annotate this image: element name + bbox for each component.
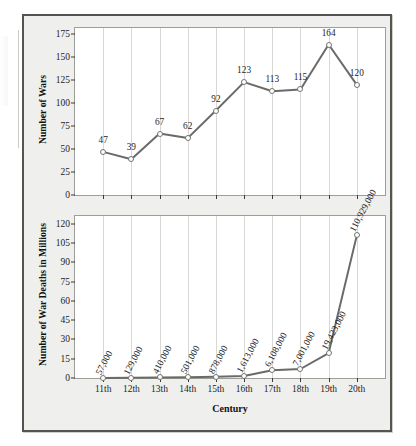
data-point-marker [326,42,332,48]
x-axis-tickmark [329,378,330,382]
x-axis-tickmark [131,195,132,199]
y-axis-tick-wars-100: 100 [56,98,75,108]
chart-panel-war-deaths: Number of War Deaths in Millions 57,0001… [24,211,390,431]
y-axis-tick-deaths-60: 60 [61,296,76,306]
x-axis-tickmark [329,195,330,199]
data-point-marker [157,131,163,137]
x-axis-tickmark [244,195,245,199]
x-axis-tick-20th: 20th [348,384,365,394]
y-axis-tick-deaths-45: 45 [61,315,76,325]
y-axis-tick-deaths-15: 15 [61,354,76,364]
figure-frame: Number of Wars 4739676292123113115164120… [22,14,392,432]
data-point-marker [241,79,247,85]
data-point-label: 113 [265,74,279,84]
x-axis-tick-18th: 18th [292,384,309,394]
data-point-marker [269,88,275,94]
x-axis-tick-14th: 14th [179,384,196,394]
data-point-label: 123 [237,65,251,75]
data-point-marker [213,108,219,114]
x-axis-tickmark [216,195,217,199]
scan-artifact-left-line [18,30,19,148]
x-axis-tick-11th: 11th [95,384,112,394]
data-point-marker [185,135,191,141]
x-axis-tick-16th: 16th [236,384,253,394]
y-axis-tick-wars-0: 0 [65,190,75,200]
scan-artifact-left-smudge [0,36,8,106]
y-axis-title-wars: Number of Wars [37,26,48,193]
x-axis-tickmark [188,195,189,199]
data-point-marker [297,86,303,92]
data-point-label: 39 [127,142,136,152]
x-axis-tickmark [272,195,273,199]
data-point-marker [128,156,134,162]
x-axis-title-century: Century [74,403,386,414]
y-axis-tick-deaths-90: 90 [61,257,76,267]
x-axis-tick-17th: 17th [264,384,281,394]
data-point-label: 47 [99,135,108,145]
data-point-marker [354,82,360,88]
x-axis-tick-19th: 19th [320,384,337,394]
data-point-marker [354,232,360,238]
x-axis-tick-12th: 12th [123,384,140,394]
data-point-marker [100,149,106,155]
data-point-label: 120 [350,68,364,78]
data-point-label: 164 [322,28,336,38]
x-axis-tickmark [357,195,358,199]
series-line [75,216,385,378]
x-axis-tickmark [300,378,301,382]
y-axis-tick-deaths-105: 105 [56,238,75,248]
data-point-marker [185,374,191,380]
y-axis-tick-wars-75: 75 [61,121,76,131]
x-axis-tickmark [103,195,104,199]
y-axis-tick-deaths-75: 75 [61,277,76,287]
y-axis-title-deaths: Number of War Deaths in Millions [37,214,48,376]
data-point-label: 62 [183,121,192,131]
y-axis-tick-wars-25: 25 [61,167,76,177]
x-axis-tick-15th: 15th [207,384,224,394]
data-point-label: 115 [294,72,308,82]
y-axis-tick-deaths-0: 0 [65,373,75,383]
y-axis-tick-wars-150: 150 [56,52,75,62]
chart-panel-number-of-wars: Number of Wars 4739676292123113115164120… [24,16,390,206]
y-axis-tick-wars-125: 125 [56,75,75,85]
data-point-label: 67 [155,117,164,127]
x-axis-tickmark [300,195,301,199]
x-axis-tickmark [272,378,273,382]
data-point-label: 92 [211,94,220,104]
y-axis-tick-wars-50: 50 [61,144,76,154]
x-axis-tickmark [357,378,358,382]
x-axis-tick-13th: 13th [151,384,168,394]
y-axis-tick-deaths-120: 120 [56,219,75,229]
data-point-marker [157,374,163,380]
y-axis-tick-deaths-30: 30 [61,334,76,344]
series-line [75,28,385,195]
y-axis-tick-wars-175: 175 [56,29,75,39]
x-axis-tickmark [160,195,161,199]
